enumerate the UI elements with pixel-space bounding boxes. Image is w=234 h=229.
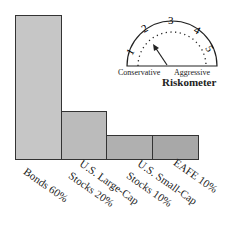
pointer-arrow-icon <box>153 44 159 51</box>
bar-eafe <box>152 135 199 160</box>
svg-text:3: 3 <box>168 14 174 26</box>
bar-us-small-cap <box>106 135 153 160</box>
svg-text:4: 4 <box>192 23 203 36</box>
riskometer-title: Riskometer <box>162 76 216 88</box>
label-conservative: Conservative <box>118 68 160 77</box>
bar-bonds <box>15 15 62 160</box>
label-bonds: Bonds 60% <box>22 166 70 204</box>
bar-us-large-cap <box>61 111 107 160</box>
